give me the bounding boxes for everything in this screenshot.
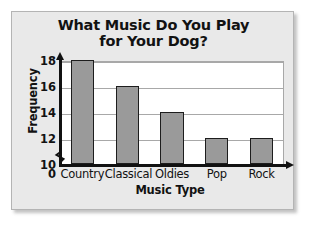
bars-group (60, 62, 283, 164)
y-tick-label: 16 (34, 82, 56, 92)
plot-area (60, 61, 284, 165)
bar (160, 112, 183, 164)
chart-figure-panel: What Music Do You Play for Your Dog? Fre… (11, 11, 294, 210)
y-tick-label: 10 (34, 160, 56, 170)
y-tick-label: 18 (34, 56, 56, 66)
y-axis-arrow-icon (56, 52, 64, 60)
bar (250, 138, 273, 164)
bar (71, 60, 94, 164)
bar (116, 86, 139, 164)
x-axis-tick-labels: CountryClassicalOldiesPopRock (60, 167, 288, 183)
axis-break-icon (54, 148, 66, 164)
y-tick-label: 12 (34, 134, 56, 144)
y-tick-label: 14 (34, 108, 56, 118)
bar (205, 138, 228, 164)
x-tick-label: Pop (194, 167, 239, 181)
x-tick-label: Country (60, 167, 105, 181)
y-axis-tick-labels: 01012141618 (32, 12, 56, 211)
x-tick-label: Rock (239, 167, 284, 181)
x-tick-label: Classical (105, 167, 150, 181)
x-axis-title: Music Type (52, 183, 288, 197)
x-tick-label: Oldies (150, 167, 195, 181)
